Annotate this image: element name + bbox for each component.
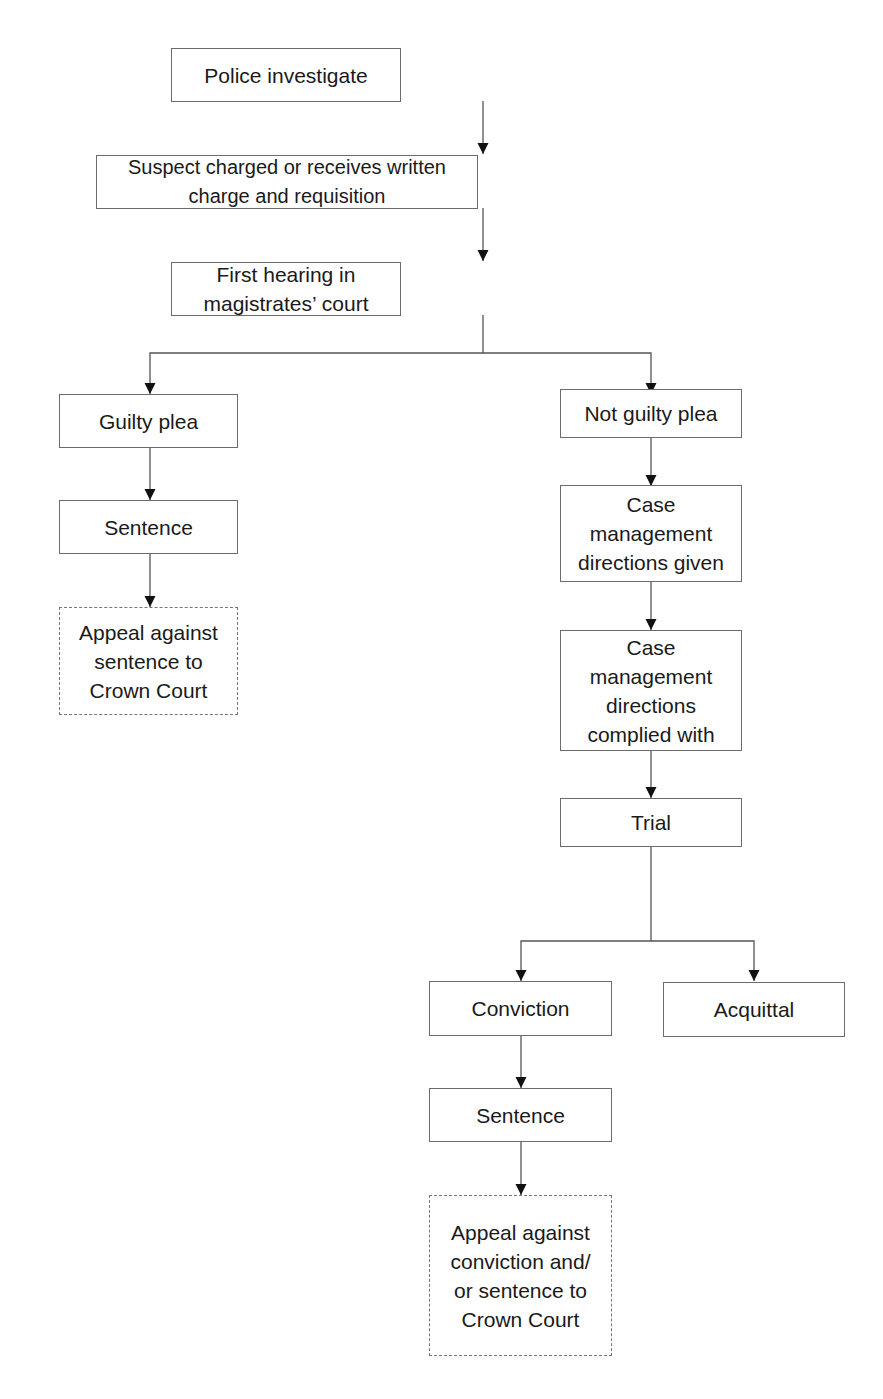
node-trial: Trial: [560, 798, 742, 847]
node-case-management-complied: Case management directions complied with: [560, 630, 742, 751]
node-not-guilty-plea: Not guilty plea: [560, 389, 742, 438]
node-appeal-against-sentence: Appeal against sentence to Crown Court: [59, 607, 238, 715]
node-suspect-charged: Suspect charged or receives written char…: [96, 155, 478, 209]
node-label: Guilty plea: [99, 407, 198, 436]
node-appeal-against-conviction: Appeal against conviction and/ or senten…: [429, 1195, 612, 1356]
node-label: Acquittal: [714, 995, 795, 1024]
node-label: Police investigate: [204, 61, 367, 90]
node-label: Trial: [631, 808, 671, 837]
node-label: Appeal against conviction and/ or senten…: [440, 1218, 601, 1334]
node-label: Sentence: [104, 513, 193, 542]
node-label: Case management directions given: [571, 490, 731, 577]
node-first-hearing: First hearing in magistrates’ court: [171, 262, 401, 316]
node-label: Not guilty plea: [584, 399, 717, 428]
node-label: Sentence: [476, 1101, 565, 1130]
node-case-management-given: Case management directions given: [560, 485, 742, 582]
node-acquittal: Acquittal: [663, 982, 845, 1037]
node-label: Suspect charged or receives written char…: [103, 153, 471, 211]
node-police-investigate: Police investigate: [171, 48, 401, 102]
node-guilty-plea: Guilty plea: [59, 394, 238, 448]
node-sentence-left: Sentence: [59, 500, 238, 554]
node-label: Case management directions complied with: [575, 633, 727, 749]
node-label: Conviction: [471, 994, 569, 1023]
node-conviction: Conviction: [429, 981, 612, 1036]
node-label: Appeal against sentence to Crown Court: [72, 618, 225, 705]
node-sentence-right: Sentence: [429, 1088, 612, 1142]
node-label: First hearing in magistrates’ court: [178, 260, 394, 318]
